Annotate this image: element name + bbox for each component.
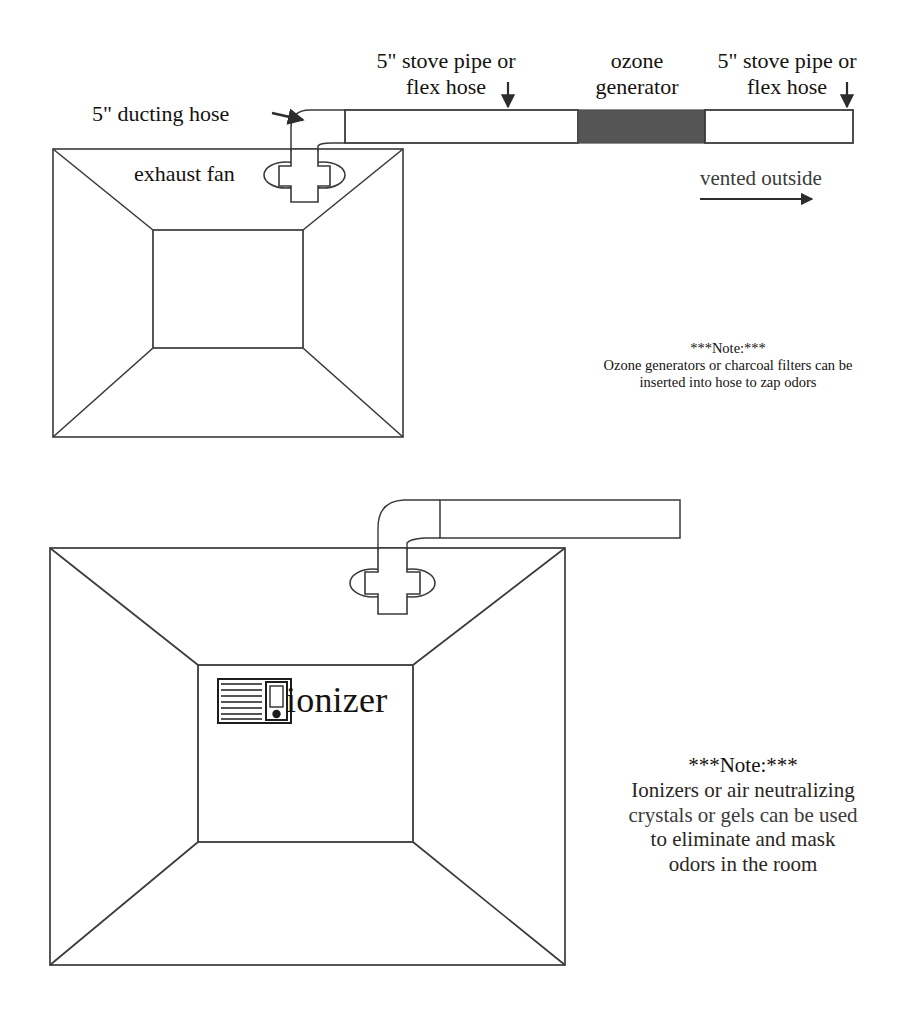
bottom-room-box (50, 548, 565, 965)
note-bottom-line3: to eliminate and mask (578, 827, 908, 852)
label-right-stove-pipe: 5" stove pipe or flex hose (697, 48, 877, 100)
ducting-hose-arrow-icon (272, 113, 303, 120)
note-top-heading: ***Note:*** (538, 340, 918, 357)
left-stove-pipe (345, 110, 578, 143)
label-exhaust-fan: exhaust fan (134, 161, 235, 187)
note-bottom: ***Note:*** Ionizers or air neutralizing… (578, 753, 908, 877)
note-top: ***Note:*** Ozone generators or charcoal… (538, 340, 918, 391)
note-bottom-line1: Ionizers or air neutralizing (578, 778, 908, 803)
label-ozone-generator: ozone generator (582, 48, 692, 100)
bottom-duct-elbow (378, 500, 440, 550)
bottom-duct-run (440, 500, 680, 538)
note-top-line1: Ozone generators or charcoal filters can… (538, 357, 918, 374)
right-stove-pipe (705, 110, 853, 143)
note-top-line2: inserted into hose to zap odors (538, 374, 918, 391)
label-left-stove-pipe-line1: 5" stove pipe or (356, 48, 536, 74)
label-left-stove-pipe-line2: flex hose (356, 74, 536, 100)
top-room-box (53, 149, 403, 437)
top-exhaust-fan-icon (264, 149, 345, 202)
top-duct-elbow (291, 110, 345, 151)
label-ducting-hose: 5" ducting hose (92, 101, 229, 127)
label-right-stove-pipe-line2: flex hose (697, 74, 877, 100)
note-bottom-line4: odors in the room (578, 852, 908, 877)
ozone-generator-unit (578, 110, 705, 143)
label-ionizer: ionizer (286, 679, 387, 721)
note-bottom-line2: crystals or gels can be used (578, 803, 908, 828)
bottom-exhaust-fan-icon (350, 548, 435, 614)
label-right-stove-pipe-line1: 5" stove pipe or (697, 48, 877, 74)
note-bottom-heading: ***Note:*** (578, 753, 908, 778)
label-ozone-generator-line1: ozone (582, 48, 692, 74)
ionizer-appliance-icon (218, 679, 291, 723)
diagram-canvas: 5" ducting hose exhaust fan 5" stove pip… (0, 0, 923, 1009)
label-vented-outside: vented outside (700, 166, 822, 191)
label-left-stove-pipe: 5" stove pipe or flex hose (356, 48, 536, 100)
label-ozone-generator-line2: generator (582, 74, 692, 100)
